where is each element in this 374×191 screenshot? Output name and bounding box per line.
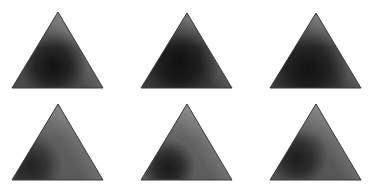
ternary-figure bbox=[0, 0, 374, 191]
ternary-panel-3 bbox=[270, 13, 361, 88]
panels-group bbox=[12, 12, 361, 180]
ternary-panel-2 bbox=[141, 13, 232, 88]
panel-apex-fade bbox=[270, 13, 361, 88]
panel-apex-fade bbox=[270, 104, 361, 180]
panel-apex-fade bbox=[12, 104, 103, 180]
ternary-panel-4 bbox=[12, 104, 103, 180]
panel-apex-fade bbox=[141, 13, 232, 88]
ternary-panel-1 bbox=[12, 12, 103, 88]
ternary-panel-6 bbox=[270, 104, 361, 180]
panel-apex-fade bbox=[141, 104, 232, 180]
panel-apex-fade bbox=[12, 12, 103, 88]
ternary-panel-5 bbox=[141, 104, 232, 180]
